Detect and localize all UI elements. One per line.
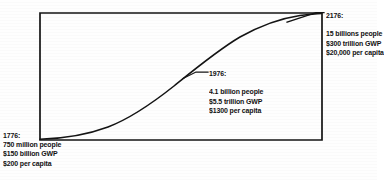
annotation-1776-year: 1776:: [3, 131, 61, 140]
annotation-1976: 1976: 4.1 billion people $5.5 trillion G…: [209, 69, 263, 115]
annotation-1776-per-capita: $200 per capita: [3, 159, 61, 168]
annotation-1976-stats: 4.1 billion people $5.5 trillion GWP $13…: [209, 87, 263, 115]
annotation-2176-year: 2176:: [326, 11, 384, 20]
annotation-1776-gwp: $150 billion GWP: [3, 149, 61, 158]
annotation-1776-stats: 750 million people $150 billion GWP $200…: [3, 140, 61, 168]
annotation-2176-population: 15 billions people: [326, 29, 384, 38]
annotation-2176: 2176: 15 billions people $300 trillion G…: [326, 11, 384, 57]
annotation-1976-gwp: $5.5 trillion GWP: [209, 97, 263, 106]
annotation-2176-stats: 15 billions people $300 trillion GWP $20…: [326, 29, 384, 57]
annotation-1776: 1776: 750 million people $150 billion GW…: [3, 131, 61, 168]
annotation-1976-population: 4.1 billion people: [209, 87, 263, 96]
annotation-2176-per-capita: $20,000 per capita: [326, 48, 384, 57]
growth-curve: [40, 13, 321, 139]
annotation-1776-population: 750 million people: [3, 140, 61, 149]
annotation-1976-year: 1976:: [209, 69, 263, 78]
plot-frame: [40, 13, 322, 140]
annotation-2176-gwp: $300 trillion GWP: [326, 39, 384, 48]
annotation-1976-per-capita: $1300 per capita: [209, 106, 263, 115]
